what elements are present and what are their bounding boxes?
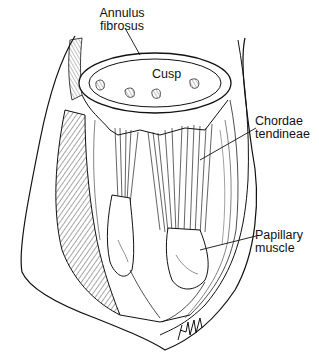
heart-valve-illustration (0, 0, 319, 354)
label-line: Cusp (152, 68, 192, 81)
label-papillary-muscle: Papillary muscle (255, 229, 315, 255)
label-chordae-tendineae: Chordae tendineae (255, 115, 315, 141)
label-line: muscle (255, 242, 315, 255)
label-line: fibrosus (92, 20, 152, 33)
label-annulus-fibrosus: Annulus fibrosus (92, 7, 152, 33)
atrial-wall-left (69, 38, 82, 100)
papillary-muscle-right (166, 228, 208, 289)
label-cusp: Cusp (152, 68, 192, 81)
papillary-muscle-left (107, 195, 133, 276)
leader-chordae (200, 128, 256, 160)
cusp-tip (152, 89, 161, 98)
cusp-tip (96, 80, 105, 90)
label-line: tendineae (255, 128, 315, 141)
apex-cut (120, 315, 190, 322)
